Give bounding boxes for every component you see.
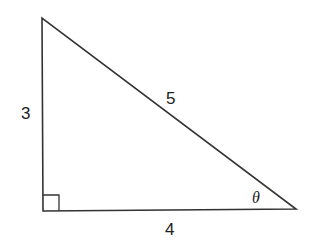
right-angle-marker — [43, 195, 59, 211]
right-triangle — [42, 18, 296, 211]
angle-theta-label: θ — [252, 189, 260, 206]
triangle-diagram: 3 5 4 θ — [0, 0, 311, 242]
horizontal-side-label: 4 — [165, 220, 174, 239]
vertical-side-label: 3 — [21, 104, 30, 123]
hypotenuse-label: 5 — [166, 89, 175, 108]
